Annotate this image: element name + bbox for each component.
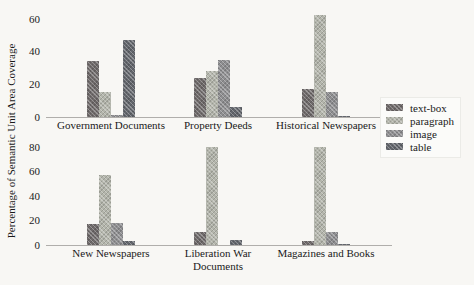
bar-paragraph — [99, 175, 111, 245]
bar-text-box — [87, 61, 99, 117]
top-row-axes: 0204060Government DocumentsProperty Deed… — [46, 12, 392, 118]
bar-paragraph — [314, 147, 326, 245]
x-category-label: Government Documents — [53, 119, 169, 132]
bar-table — [230, 240, 242, 245]
legend-swatch-paragraph — [386, 117, 403, 124]
y-tick-label: 60 — [2, 13, 40, 26]
legend-label: paragraph — [410, 115, 454, 127]
x-category-label: Property Deeds — [160, 119, 276, 132]
x-category-label: Historical Newspapers — [268, 119, 384, 132]
legend-entry: image — [386, 127, 454, 140]
legend-swatch-table — [386, 143, 403, 150]
bottom-row-axes: 020406080New NewspapersLiberation War Do… — [46, 142, 392, 246]
legend-label: image — [410, 128, 437, 140]
x-category-label: Liberation War Documents — [160, 247, 276, 272]
bar-group — [302, 12, 350, 117]
legend-entry: paragraph — [386, 114, 454, 127]
bar-image — [326, 232, 338, 245]
x-category-label: Magazines and Books — [268, 247, 384, 260]
legend-entry: text-box — [386, 101, 454, 114]
bar-table — [338, 244, 350, 245]
legend-entry: table — [386, 140, 454, 153]
y-tick-label: 80 — [2, 141, 40, 154]
bar-paragraph — [206, 71, 218, 117]
bar-paragraph — [206, 147, 218, 245]
y-tick-label: 0 — [2, 111, 40, 124]
y-tick-label: 60 — [2, 165, 40, 178]
y-tick-label: 20 — [2, 214, 40, 227]
bar-group — [302, 142, 350, 245]
bar-text-box — [87, 224, 99, 245]
bar-image — [111, 115, 123, 117]
bar-text-box — [302, 89, 314, 117]
bar-text-box — [194, 232, 206, 245]
bar-text-box — [194, 78, 206, 117]
legend-swatch-text-box — [386, 104, 403, 111]
legend: text-boxparagraphimagetable — [380, 97, 461, 158]
bar-table — [338, 116, 350, 117]
bar-group — [194, 142, 242, 245]
bar-table — [123, 40, 135, 117]
legend-label: table — [410, 141, 431, 153]
legend-swatch-image — [386, 130, 403, 137]
legend-label: text-box — [410, 102, 447, 114]
y-tick-label: 40 — [2, 190, 40, 203]
bar-image — [218, 60, 230, 117]
y-tick-label: 40 — [2, 45, 40, 58]
bar-paragraph — [314, 15, 326, 117]
bar-image — [326, 92, 338, 117]
bar-group — [194, 12, 242, 117]
figure: Percentage of Semantic Unit Area Coverag… — [0, 0, 474, 285]
bar-image — [111, 223, 123, 245]
bar-group — [87, 12, 135, 117]
bar-table — [230, 107, 242, 117]
bar-text-box — [302, 241, 314, 245]
bar-group — [87, 142, 135, 245]
y-tick-label: 20 — [2, 78, 40, 91]
bar-table — [123, 241, 135, 245]
bar-paragraph — [99, 92, 111, 117]
x-category-label: New Newspapers — [53, 247, 169, 260]
y-tick-label: 0 — [2, 239, 40, 252]
